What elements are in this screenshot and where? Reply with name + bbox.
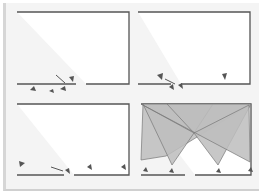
panel-bottom-right [140, 103, 256, 185]
panel-top-left [16, 11, 132, 93]
room-diagram [16, 11, 132, 93]
panel-bottom-left [16, 103, 132, 185]
room-diagram [16, 103, 132, 185]
panel-top-right [137, 11, 253, 93]
coverage-diagram [140, 103, 256, 185]
room-diagram [137, 11, 253, 93]
